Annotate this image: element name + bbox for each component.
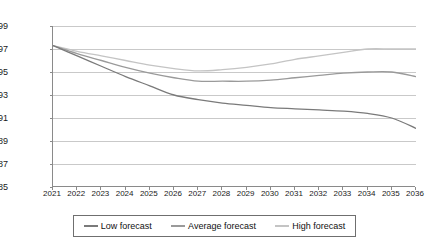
x-axis-tick-label: 2028 [208,190,234,198]
x-axis-tick-mark [415,187,416,190]
legend-item-average-forecast[interactable]: Average forecast [171,221,256,231]
x-axis-tick-label: 2033 [329,190,355,198]
y-axis-tick-label: 89 [0,137,8,146]
x-axis-tick-label: 2029 [233,190,259,198]
series-lines [53,26,416,187]
x-axis-tick-mark [197,187,198,190]
x-axis-tick-label: 2036 [402,190,427,198]
y-axis-tick-label: 97 [0,45,8,54]
legend-line-swatch-icon [275,225,289,227]
legend-line-swatch-icon [171,225,185,227]
x-axis-tick-mark [246,187,247,190]
x-axis-tick-label: 2022 [63,190,89,198]
x-axis-tick-label: 2021 [39,190,65,198]
x-axis-tick-mark [391,187,392,190]
chart-legend: Low forecastAverage forecastHigh forecas… [73,215,356,237]
x-axis-tick-label: 2030 [257,190,283,198]
y-axis-tick-label: 91 [0,114,8,123]
x-axis-tick-mark [270,187,271,190]
x-axis-tick-mark [125,187,126,190]
legend-item-high-forecast[interactable]: High forecast [275,221,345,231]
series-line-low-forecast [53,46,416,129]
x-axis-tick-label: 2027 [184,190,210,198]
x-axis-tick-label: 2035 [378,190,404,198]
legend-item-low-forecast[interactable]: Low forecast [84,221,152,231]
x-axis-tick-label: 2034 [354,190,380,198]
legend-label: Average forecast [188,221,256,231]
x-axis-tick-mark [173,187,174,190]
x-axis-tick-label: 2025 [136,190,162,198]
x-axis-tick-label: 2023 [87,190,113,198]
x-axis-tick-label: 2026 [160,190,186,198]
series-line-high-forecast [53,46,416,71]
legend-label: Low forecast [101,221,152,231]
y-axis-tick-label: 99 [0,22,8,31]
legend-label: High forecast [292,221,345,231]
series-line-average-forecast [53,46,416,82]
x-axis-tick-label: 2024 [112,190,138,198]
chart-container: Population (millions) 9997959391898785 2… [0,0,427,247]
x-axis-tick-mark [318,187,319,190]
x-axis-tick-mark [342,187,343,190]
x-axis-tick-label: 2031 [281,190,307,198]
plot-area [52,26,415,187]
y-axis-tick-label: 85 [0,183,8,192]
x-axis-tick-mark [221,187,222,190]
y-axis-tick-label: 95 [0,68,8,77]
x-axis-tick-mark [149,187,150,190]
y-axis-tick-label: 87 [0,160,8,169]
x-axis-tick-mark [367,187,368,190]
legend-line-swatch-icon [84,225,98,227]
x-axis-tick-mark [76,187,77,190]
y-axis-tick-mark [50,187,53,188]
x-axis-tick-mark [100,187,101,190]
x-axis-tick-label: 2032 [305,190,331,198]
x-axis-tick-mark [294,187,295,190]
y-axis-tick-label: 93 [0,91,8,100]
